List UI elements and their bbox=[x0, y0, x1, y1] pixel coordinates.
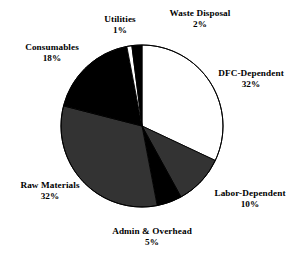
pie-label-utilities-value: 1% bbox=[104, 25, 136, 36]
pie-label-admin-overhead: Admin & Overhead 5% bbox=[112, 226, 192, 248]
pie-label-admin-overhead-name: Admin & Overhead bbox=[112, 226, 192, 237]
pie-label-admin-overhead-value: 5% bbox=[112, 237, 192, 248]
pie-label-consumables-name: Consumables bbox=[25, 42, 79, 53]
pie-label-waste-disposal-name: Waste Disposal bbox=[170, 8, 231, 19]
pie-label-utilities-name: Utilities bbox=[104, 14, 136, 25]
pie-label-waste-disposal: Waste Disposal 2% bbox=[170, 8, 231, 30]
pie-label-labor-dependent: Labor-Dependent 10% bbox=[214, 188, 285, 210]
pie-label-raw-materials: Raw Materials 32% bbox=[20, 180, 79, 202]
pie-label-utilities: Utilities 1% bbox=[104, 14, 136, 36]
pie-label-raw-materials-value: 32% bbox=[20, 191, 79, 202]
pie-label-dfc-dependent-name: DFC-Dependent bbox=[218, 68, 284, 79]
pie-chart: Utilities 1% Waste Disposal 2% Consumabl… bbox=[0, 0, 303, 258]
pie-label-consumables-value: 18% bbox=[25, 53, 79, 64]
pie-label-dfc-dependent: DFC-Dependent 32% bbox=[218, 68, 284, 90]
pie-label-waste-disposal-value: 2% bbox=[170, 19, 231, 30]
pie-chart-graphic bbox=[0, 0, 303, 258]
pie-label-labor-dependent-value: 10% bbox=[214, 199, 285, 210]
pie-slice-group bbox=[61, 45, 223, 207]
pie-label-raw-materials-name: Raw Materials bbox=[20, 180, 79, 191]
pie-label-dfc-dependent-value: 32% bbox=[218, 79, 284, 90]
pie-label-labor-dependent-name: Labor-Dependent bbox=[214, 188, 285, 199]
pie-label-consumables: Consumables 18% bbox=[25, 42, 79, 64]
